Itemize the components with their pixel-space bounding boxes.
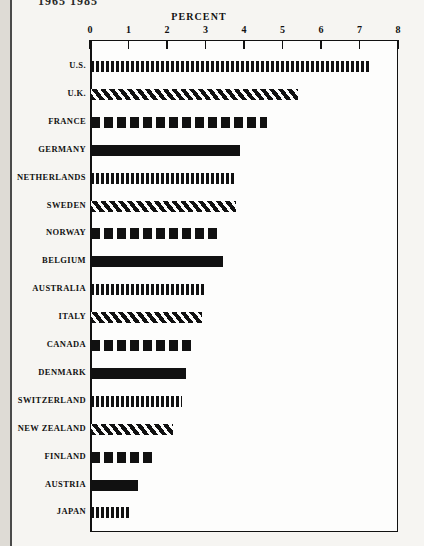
category-label-netherlands: NETHERLANDS xyxy=(17,172,86,182)
bar-row: BELGIUM xyxy=(0,248,424,276)
axis-tick-label: 1 xyxy=(126,24,131,35)
category-label-u-s: U.S. xyxy=(69,60,86,70)
bar-u-k xyxy=(91,89,298,100)
axis-tick-label: 8 xyxy=(396,24,401,35)
bar-norway xyxy=(91,228,217,239)
bar-row: SWEDEN xyxy=(0,193,424,221)
category-label-canada: CANADA xyxy=(47,339,86,349)
bar-row: AUSTRALIA xyxy=(0,276,424,304)
bar-austria xyxy=(91,480,138,491)
bar-new-zealand xyxy=(91,424,173,435)
category-label-austria: AUSTRIA xyxy=(45,479,86,489)
category-label-germany: GERMANY xyxy=(38,144,86,154)
axis-tick-7 xyxy=(359,40,361,49)
category-label-australia: AUSTRALIA xyxy=(32,283,86,293)
bar-italy xyxy=(91,312,202,323)
axis-tick-3 xyxy=(205,40,207,49)
bar-row: NETHERLANDS xyxy=(0,165,424,193)
bar-row: FRANCE xyxy=(0,109,424,137)
bar-row: SWITZERLAND xyxy=(0,388,424,416)
axis-tick-label: 2 xyxy=(165,24,170,35)
axis-tick-1 xyxy=(128,40,130,49)
chart-axis-title: PERCENT xyxy=(34,11,364,22)
bar-row: CANADA xyxy=(0,332,424,360)
category-label-denmark: DENMARK xyxy=(38,367,86,377)
axis-tick-label: 6 xyxy=(319,24,324,35)
axis-tick-5 xyxy=(282,40,284,49)
axis-tick-8 xyxy=(397,40,399,49)
category-label-italy: ITALY xyxy=(58,311,86,321)
bar-france xyxy=(91,117,267,128)
axis-tick-label: 0 xyxy=(88,24,93,35)
bar-row: NORWAY xyxy=(0,220,424,248)
bar-finland xyxy=(91,452,154,463)
bar-switzerland xyxy=(91,396,182,407)
bar-row: JAPAN xyxy=(0,499,424,527)
category-label-u-k: U.K. xyxy=(67,88,86,98)
axis-tick-4 xyxy=(243,40,245,49)
category-label-switzerland: SWITZERLAND xyxy=(18,395,86,405)
bar-belgium xyxy=(91,256,223,267)
bar-sweden xyxy=(91,201,236,212)
bar-japan xyxy=(91,507,129,518)
bar-row: ITALY xyxy=(0,304,424,332)
axis-tick-6 xyxy=(320,40,322,49)
bar-u-s xyxy=(91,61,371,72)
bar-row: U.S. xyxy=(0,53,424,81)
category-label-new-zealand: NEW ZEALAND xyxy=(18,423,86,433)
axis-tick-0 xyxy=(89,40,91,49)
category-label-finland: FINLAND xyxy=(44,451,86,461)
bar-row: DENMARK xyxy=(0,360,424,388)
category-label-sweden: SWEDEN xyxy=(47,200,86,210)
bar-row: U.K. xyxy=(0,81,424,109)
bar-netherlands xyxy=(91,173,234,184)
category-label-norway: NORWAY xyxy=(46,227,86,237)
axis-tick-label: 7 xyxy=(357,24,362,35)
axis-tick-2 xyxy=(166,40,168,49)
bar-germany xyxy=(91,145,240,156)
category-label-france: FRANCE xyxy=(48,116,86,126)
page-background: 1965 1985 PERCENT 012345678 U.S.U.K.FRAN… xyxy=(0,0,424,546)
bar-row: AUSTRIA xyxy=(0,472,424,500)
axis-tick-label: 5 xyxy=(280,24,285,35)
bar-canada xyxy=(91,340,194,351)
axis-tick-label: 4 xyxy=(242,24,247,35)
category-label-belgium: BELGIUM xyxy=(42,255,86,265)
bar-row: NEW ZEALAND xyxy=(0,416,424,444)
category-label-japan: JAPAN xyxy=(57,506,86,516)
bar-australia xyxy=(91,284,206,295)
bar-row: GERMANY xyxy=(0,137,424,165)
running-head: 1965 1985 xyxy=(38,0,98,9)
bar-denmark xyxy=(91,368,186,379)
bar-row: FINLAND xyxy=(0,444,424,472)
axis-tick-label: 3 xyxy=(203,24,208,35)
